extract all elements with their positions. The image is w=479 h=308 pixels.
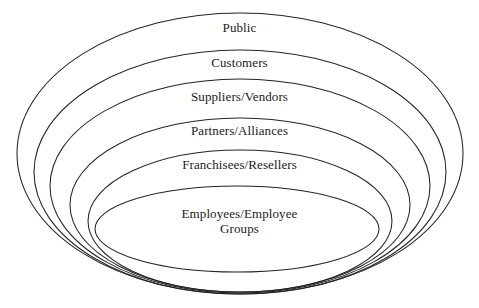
ellipse-ring-franchisees-resellers <box>88 150 392 292</box>
nested-ellipses-graphic <box>0 0 479 308</box>
ellipse-ring-customers <box>34 50 446 294</box>
ellipse-ring-partners-alliances <box>70 118 410 292</box>
stakeholder-diagram: Public Customers Suppliers/Vendors Partn… <box>0 0 479 308</box>
ellipse-ring-employees-groups <box>95 186 379 272</box>
